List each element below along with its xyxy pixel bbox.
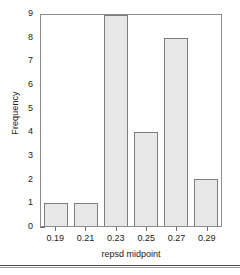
bar[interactable] — [104, 15, 129, 226]
x-axis: 0.190.210.230.250.270.29 — [40, 227, 222, 249]
bar-slot — [161, 15, 191, 226]
bar-series — [41, 15, 221, 226]
footer-divider — [0, 265, 240, 266]
y-tick-label: 2 — [28, 174, 33, 185]
x-tick-label: 0.23 — [107, 233, 125, 244]
x-axis-tick: 0.25 — [131, 227, 161, 249]
x-tick-label: 0.25 — [137, 233, 155, 244]
y-tick-label: 9 — [28, 8, 33, 19]
footer-ghost-text — [0, 269, 240, 275]
x-axis-tick: 0.27 — [161, 227, 191, 249]
y-tick-label: 0 — [28, 221, 33, 232]
bar-slot — [101, 15, 131, 226]
x-tick-label: 0.19 — [46, 233, 64, 244]
plot-area — [40, 14, 222, 227]
bar[interactable] — [194, 179, 219, 226]
x-tick-mark — [176, 227, 177, 231]
x-axis-tick: 0.23 — [101, 227, 131, 249]
y-tick-label: 4 — [28, 126, 33, 137]
y-tick-label: 7 — [28, 55, 33, 66]
bar-slot — [191, 15, 221, 226]
x-tick-mark — [116, 227, 117, 231]
y-tick-label: 1 — [28, 197, 33, 208]
x-axis-tick: 0.29 — [192, 227, 222, 249]
x-tick-label: 0.21 — [77, 233, 95, 244]
bar-slot — [131, 15, 161, 226]
x-axis-tick: 0.19 — [40, 227, 70, 249]
bar-slot — [71, 15, 101, 226]
bar[interactable] — [164, 38, 189, 226]
x-axis-title: repsd midpoint — [40, 249, 222, 259]
histogram-figure: Frequency 0123456789 0.190.210.230.250.2… — [0, 0, 240, 275]
y-tick-label: 6 — [28, 79, 33, 90]
x-tick-mark — [146, 227, 147, 231]
x-tick-mark — [85, 227, 86, 231]
bar[interactable] — [134, 132, 159, 226]
x-tick-label: 0.29 — [198, 233, 216, 244]
x-tick-label: 0.27 — [168, 233, 186, 244]
bar[interactable] — [74, 203, 99, 226]
y-tick-label: 8 — [28, 32, 33, 43]
footer-divider-secondary — [0, 267, 240, 268]
y-tick-label: 3 — [28, 150, 33, 161]
bar[interactable] — [44, 203, 69, 226]
y-tick-label: 5 — [28, 103, 33, 114]
x-axis-tick: 0.21 — [70, 227, 100, 249]
bar-slot — [41, 15, 71, 226]
y-axis: 0123456789 — [0, 14, 40, 227]
x-tick-mark — [207, 227, 208, 231]
x-tick-mark — [55, 227, 56, 231]
